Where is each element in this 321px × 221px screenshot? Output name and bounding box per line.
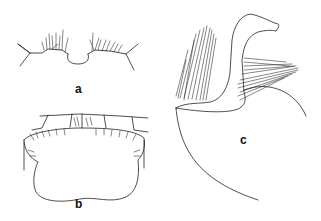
panel-b-drawing: [24, 114, 148, 201]
panel-label-a: a: [75, 83, 82, 95]
panel-label-c: c: [240, 134, 247, 146]
figure-drawing: [0, 0, 321, 221]
panel-label-b: b: [75, 198, 82, 210]
panel-a-drawing: [18, 30, 138, 70]
panel-c-drawing: [176, 14, 306, 200]
morphology-figure: a b c: [0, 0, 321, 221]
